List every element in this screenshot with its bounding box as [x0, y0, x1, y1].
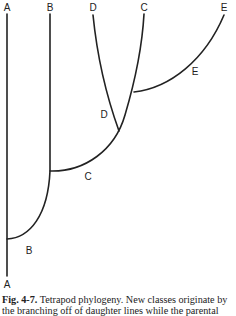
label-e-top: E	[221, 3, 228, 13]
lineage-b-line	[7, 14, 50, 239]
caption-line-1: Fig. 4-7. Tetrapod phylogeny. New classe…	[2, 294, 234, 305]
figure-number: Fig. 4-7.	[2, 294, 37, 305]
label-e-branch: E	[192, 67, 199, 77]
label-c-top: C	[140, 3, 147, 13]
label-d-top: D	[89, 3, 96, 13]
caption-line-2: the branching off of daughter lines whil…	[2, 305, 234, 316]
lineage-e-line	[134, 15, 224, 92]
label-d-branch: D	[100, 110, 107, 120]
caption-text-1: Tetrapod phylogeny. New classes originat…	[40, 294, 228, 305]
label-a-bottom: A	[4, 280, 11, 290]
lineage-c-line	[50, 14, 144, 171]
label-b-top: B	[47, 3, 54, 13]
label-b-branch: B	[26, 246, 33, 256]
figure-caption: Fig. 4-7. Tetrapod phylogeny. New classe…	[2, 294, 234, 316]
label-a-top: A	[4, 3, 11, 13]
label-c-branch: C	[84, 172, 91, 182]
